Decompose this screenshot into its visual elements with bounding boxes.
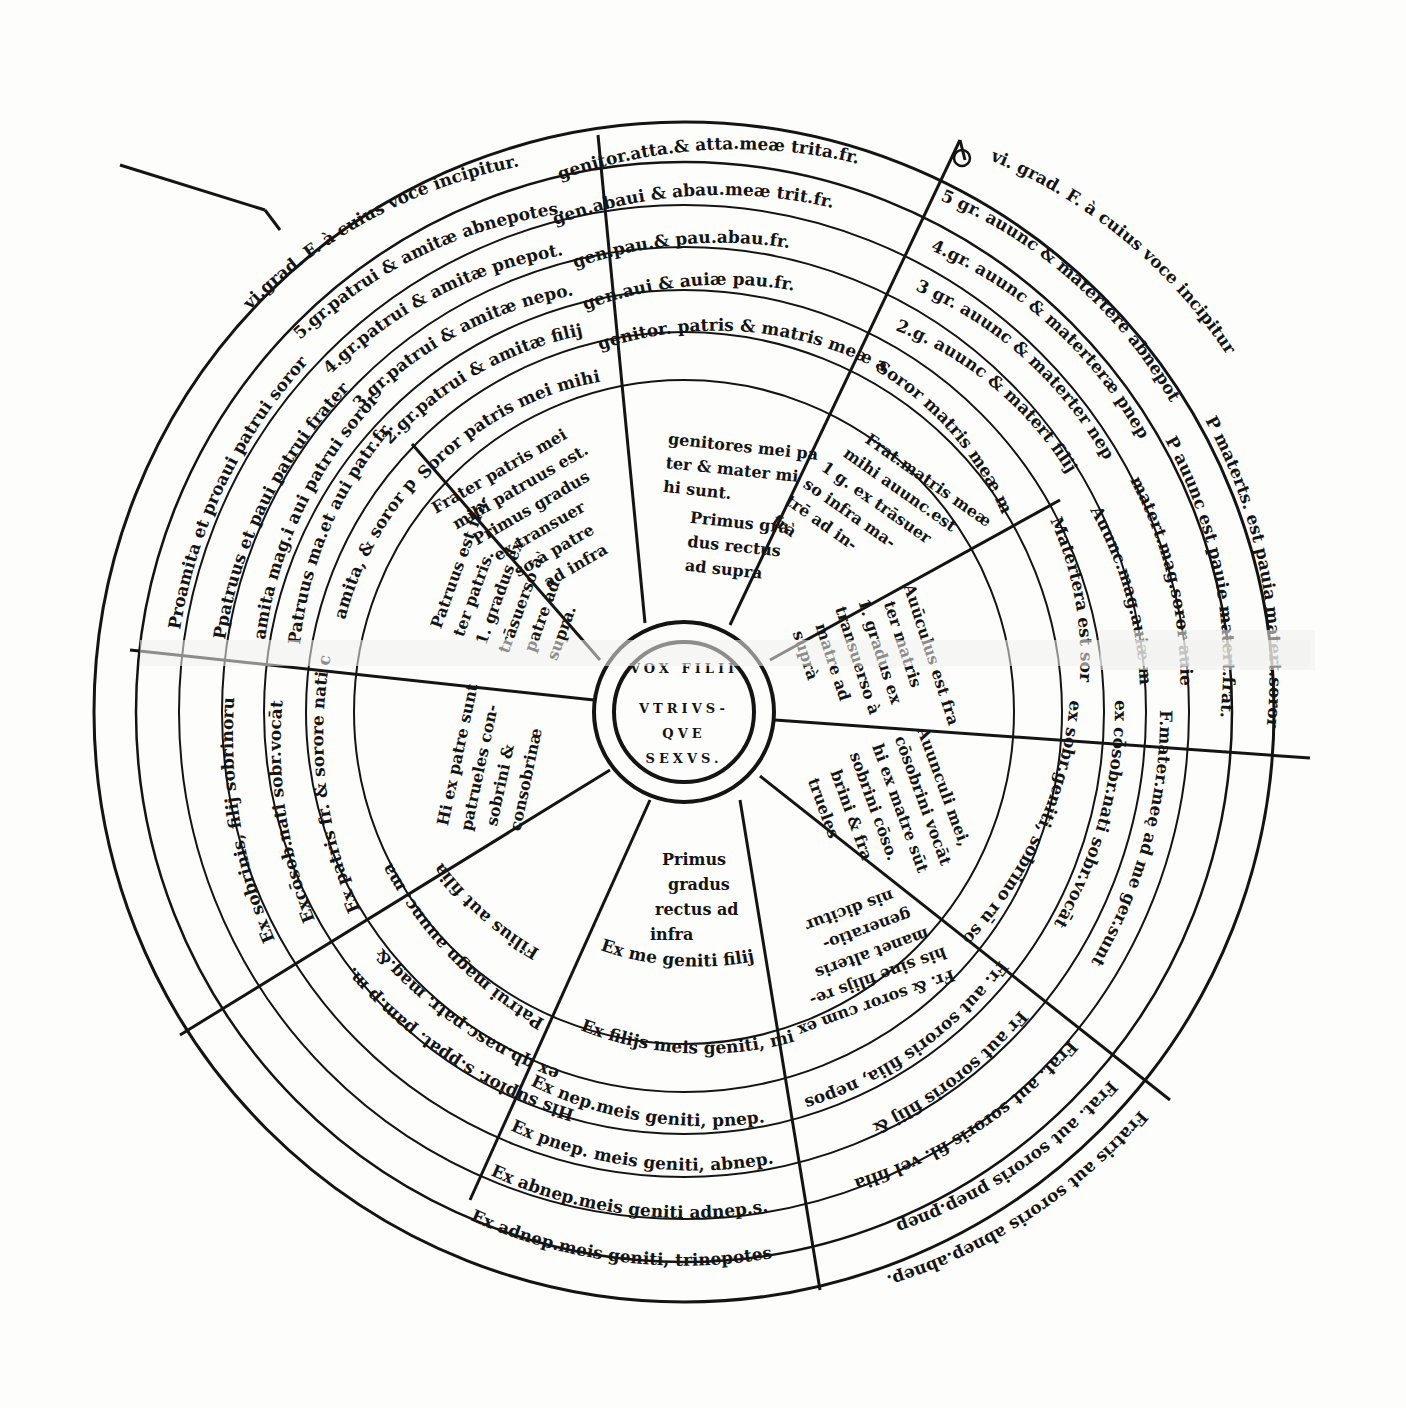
- svg-text:4.gr. auunc & materteræ pnep: 4.gr. auunc & materteræ pnep: [928, 235, 1154, 442]
- bottom-sector-inner: Primus gradus rectus ad infra: [650, 850, 739, 944]
- inner-line: hi sunt.: [662, 477, 732, 503]
- ring-label: gen.pau.& pau.abau.fr.: [570, 227, 792, 272]
- kinship-volvelle-page: VOX FILII VTRIVS- QVE SEXVS. genitor.att…: [0, 0, 1406, 1408]
- svg-text:gen.abaui & abau.meæ trit.fr.: gen.abaui & abau.meæ trit.fr.: [550, 179, 837, 229]
- svg-text:Ex patris fr. & sorore nati co: Ex patris fr. & sorore nati consob.dicun…: [0, 0, 364, 916]
- ring-label: 4.gr. auunc & materteræ pnep: [928, 235, 1154, 442]
- inner-line: rectus ad: [655, 900, 739, 919]
- bottom-right-sector-inner: Fr. & soror cum ex his sine filijs re- m…: [762, 876, 957, 1041]
- bleed-through-band: [140, 640, 1310, 666]
- svg-text:Ex sobrinis, filij sobrinorum: Ex sobrinis, filij sobrinorum: [0, 0, 279, 946]
- center-title-line: VTRIVS-: [638, 701, 729, 716]
- center-disc: VOX FILII VTRIVS- QVE SEXVS.: [629, 661, 738, 766]
- ring-label: Ex patris fr. & sorore nati consob.dicun…: [0, 0, 364, 916]
- center-title-line: SEXVS.: [646, 751, 723, 766]
- left-sector: Proamita et proaui patrui soror Ppatruus…: [0, 0, 420, 645]
- inner-line: Primus: [662, 850, 726, 869]
- inner-line: consobrinæ: [506, 726, 546, 832]
- svg-text:gen.pau.& pau.abau.fr.: gen.pau.& pau.abau.fr.: [570, 227, 792, 272]
- svg-text:Soror patris mei mihi amita es: Soror patris mei mihi amita est.: [0, 0, 607, 483]
- inner-line: infra: [650, 925, 693, 944]
- inner-line: dus rectus: [687, 532, 782, 561]
- inner-line: ad supra: [684, 556, 763, 583]
- lower-right-sector-inner: Auunculi mei, cōsobrini vocāt hi ex matr…: [800, 724, 978, 901]
- ring-label: gen.abaui & abau.meæ trit.fr.: [550, 179, 837, 229]
- upper-left-sector: vi.grad. F. à cuius voce incipitur. 5.gr…: [0, 0, 607, 483]
- center-title-line: QVE: [662, 726, 705, 741]
- inner-line: gradus: [668, 875, 730, 894]
- ring-label: Soror patris mei mihi amita est.: [0, 0, 607, 483]
- kinship-diagram: VOX FILII VTRIVS- QVE SEXVS. genitor.att…: [0, 0, 1406, 1408]
- ring-label: Ex sobrinis, filij sobrinorum: [0, 0, 279, 946]
